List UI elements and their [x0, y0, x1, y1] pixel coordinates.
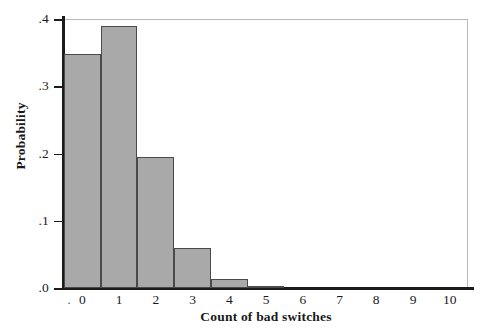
x-tick-label-4: 4 [211, 293, 247, 307]
y-tick-0 [54, 288, 63, 290]
y-tick-1 [54, 221, 63, 223]
x-tick-label-7: 7 [322, 293, 358, 307]
y-tick-2 [54, 154, 63, 156]
bar-3 [174, 248, 211, 288]
histogram-figure: .0 .1 .2 .3 .4 · 0 1 2 3 4 5 6 7 8 9 10 … [0, 0, 483, 333]
bar-series [64, 19, 468, 288]
bar-4 [211, 279, 248, 288]
y-axis-title: Probability [13, 71, 29, 201]
y-tick-label-1: .1 [21, 214, 49, 228]
x-tick-label-9: 9 [395, 293, 431, 307]
x-tick-label-3: 3 [175, 293, 211, 307]
x-axis-title: Count of bad switches [64, 309, 468, 325]
y-tick-label-0: .0 [21, 281, 49, 295]
bar-1 [101, 26, 138, 288]
bar-0 [64, 54, 101, 288]
y-tick-4 [54, 19, 63, 21]
x-tick-label-6: 6 [285, 293, 321, 307]
bar-2 [137, 157, 174, 288]
y-tick-3 [54, 86, 63, 88]
x-tick-label-2: 2 [138, 293, 174, 307]
bar-5 [248, 286, 285, 288]
x-tick-label-8: 8 [358, 293, 394, 307]
y-tick-label-4: .4 [21, 12, 49, 26]
x-tick-label-1: 1 [101, 293, 137, 307]
x-tick-label-5: 5 [248, 293, 284, 307]
x-tick-label-0: 0 [64, 293, 100, 307]
x-tick-label-10: 10 [432, 293, 468, 307]
